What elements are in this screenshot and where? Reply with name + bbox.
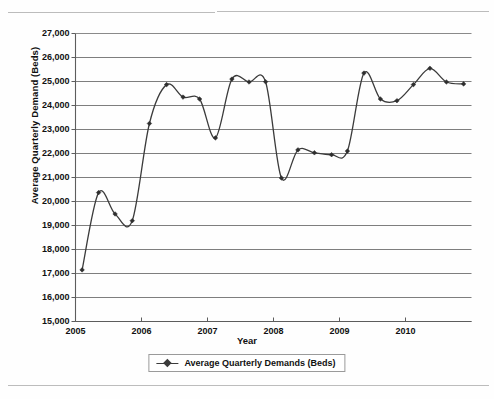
data-point-3	[130, 218, 135, 223]
legend-line-diamond-marker-icon	[156, 359, 178, 368]
data-point-0	[80, 268, 85, 273]
x-axis-title: Year	[0, 335, 494, 346]
page-canvas: Average Quarterly Demand (Beds) 15,00016…	[0, 0, 494, 399]
data-point-14	[312, 150, 317, 155]
data-point-10	[247, 80, 252, 85]
data-point-11	[263, 79, 268, 84]
data-point-16	[345, 149, 350, 154]
data-point-4	[147, 121, 152, 126]
series-line-average-quarterly-demands	[82, 68, 463, 270]
legend-label: Average Quarterly Demands (Beds)	[184, 358, 335, 368]
gridlines	[76, 34, 472, 322]
data-point-21	[428, 66, 433, 71]
series-markers	[80, 66, 466, 272]
line-chart-figure: Average Quarterly Demand (Beds) 15,00016…	[0, 0, 494, 399]
data-point-23	[461, 82, 466, 87]
chart-legend: Average Quarterly Demands (Beds)	[148, 354, 345, 372]
